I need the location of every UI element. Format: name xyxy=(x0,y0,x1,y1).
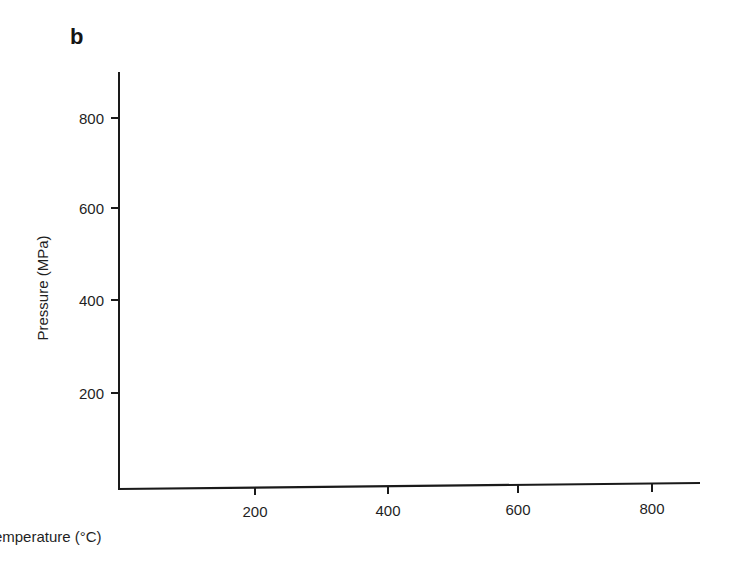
x-tick-label-600: 600 xyxy=(505,502,530,517)
x-axis-title: Temperature (°C) xyxy=(0,529,732,544)
x-tick-label-400: 400 xyxy=(375,503,400,518)
figure-panel: b 800 600 400 200 200 400 600 800 xyxy=(0,0,732,566)
axes-lines xyxy=(118,72,708,497)
y-tick-label-600: 600 xyxy=(60,201,104,216)
y-tick-label-800: 800 xyxy=(60,111,104,126)
y-tick-label-200: 200 xyxy=(60,386,104,401)
x-axis-title-text: Temperature (°C) xyxy=(0,528,102,545)
y-tick-label-400: 400 xyxy=(60,293,104,308)
plot-area: 800 600 400 200 200 400 600 800 xyxy=(118,72,700,489)
y-axis-title: Pressure (MPa) xyxy=(35,235,50,340)
x-tick-label-200: 200 xyxy=(242,504,267,519)
x-tick-label-800: 800 xyxy=(639,501,664,516)
panel-label: b xyxy=(70,26,83,48)
